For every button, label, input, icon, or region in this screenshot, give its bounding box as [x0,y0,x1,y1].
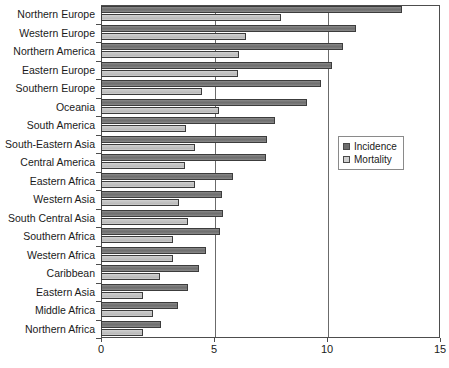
category-label: Middle Africa [35,301,95,320]
category-label: Caribbean [47,264,95,283]
bar-group [101,190,440,209]
category-label: Central America [20,153,95,172]
bar-incidence [101,284,188,291]
legend-label-incidence: Incidence [354,140,397,153]
bar-mortality [101,144,195,151]
bar-incidence [101,25,356,32]
x-axis-tick [101,338,102,342]
bar-mortality [101,14,281,21]
bar-group [101,98,440,117]
bar-mortality [101,162,185,169]
legend-label-mortality: Mortality [354,153,392,166]
bar-mortality [101,199,179,206]
bar-incidence [101,154,266,161]
bar-group [101,283,440,302]
bar-group [101,246,440,265]
bar-incidence [101,191,222,198]
bar-incidence [101,265,199,272]
bar-incidence [101,302,178,309]
bar-mortality [101,292,143,299]
bar-mortality [101,310,153,317]
category-label: Eastern Africa [30,172,95,191]
x-axis-label: 10 [312,343,342,355]
x-axis-label: 15 [425,343,449,355]
bar-group [101,116,440,135]
bar-chart: Northern EuropeWestern EuropeNorthern Am… [0,0,449,368]
category-label: Western Europe [19,24,95,43]
bar-group [101,264,440,283]
bar-mortality [101,51,239,58]
category-label: Southern Europe [16,79,95,98]
bar-incidence [101,136,267,143]
x-axis-label: 5 [199,343,229,355]
bar-group [101,172,440,191]
bar-incidence [101,99,307,106]
bar-incidence [101,173,233,180]
bar-mortality [101,236,173,243]
bar-group [101,42,440,61]
bar-incidence [101,247,206,254]
bar-mortality [101,33,246,40]
legend-item-incidence: Incidence [343,140,397,153]
bar-incidence [101,6,402,13]
bar-incidence [101,62,332,69]
category-label: Northern Europe [17,5,95,24]
category-label: South Central Asia [8,209,95,228]
x-axis-label: 0 [86,343,116,355]
category-label: Western Africa [27,246,95,265]
x-axis-tick [440,338,441,342]
bar-mortality [101,125,186,132]
bar-incidence [101,117,275,124]
bar-group [101,24,440,43]
x-axis-tick [214,338,215,342]
bar-incidence [101,210,223,217]
bar-incidence [101,321,161,328]
bar-group [101,79,440,98]
bar-group [101,320,440,339]
bar-group [101,227,440,246]
category-label: Northern America [13,42,95,61]
bar-group [101,301,440,320]
category-label: Eastern Europe [22,61,95,80]
bar-rows [101,5,440,338]
bar-group [101,5,440,24]
category-axis: Northern EuropeWestern EuropeNorthern Am… [0,5,99,338]
bar-incidence [101,43,343,50]
category-label: South-Eastern Asia [5,135,95,154]
bar-mortality [101,255,173,262]
legend-swatch-incidence [343,143,350,150]
bar-group [101,61,440,80]
bar-incidence [101,80,321,87]
bar-group [101,209,440,228]
legend: Incidence Mortality [338,136,404,170]
bar-mortality [101,273,160,280]
category-label: Oceania [56,98,95,117]
category-label: South America [27,116,95,135]
category-label: Western Asia [33,190,95,209]
category-label: Northern Africa [25,320,95,339]
bar-mortality [101,107,219,114]
bar-mortality [101,218,188,225]
bar-mortality [101,181,195,188]
legend-item-mortality: Mortality [343,153,397,166]
x-axis-tick [327,338,328,342]
bar-incidence [101,228,220,235]
bar-mortality [101,88,202,95]
legend-swatch-mortality [343,156,350,163]
category-label: Southern Africa [23,227,95,246]
bar-mortality [101,329,143,336]
category-label: Eastern Asia [36,283,95,302]
bar-mortality [101,70,238,77]
